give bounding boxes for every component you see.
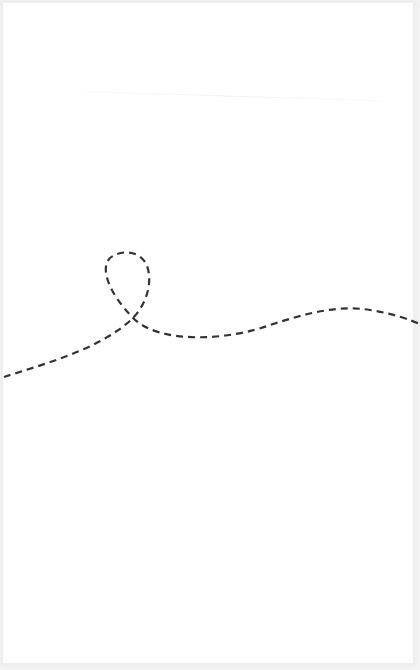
dashed-curve-path <box>4 252 420 377</box>
dashed-loop-curve-drawing <box>0 0 420 670</box>
